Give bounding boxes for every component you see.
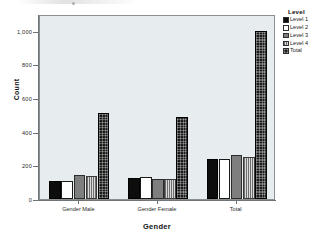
y-tick [33,166,38,167]
legend-swatch-icon [283,25,289,31]
bar [207,159,219,199]
x-tick [78,200,79,204]
bar [231,155,243,199]
legend-swatch-icon [283,41,289,47]
bar [86,176,98,199]
y-tick [33,133,38,134]
legend-title: Level [283,8,328,15]
bar [98,113,110,199]
bar [164,179,176,199]
y-tick-label: 1,000 [2,29,32,35]
plot-area [39,15,275,200]
bar-chart: 02004006008001,000 Count Gender MaleGend… [0,0,328,237]
x-tick [157,200,158,204]
y-tick-label: 200 [2,163,32,169]
x-axis-title: Gender [39,222,275,231]
legend-swatch-icon [283,17,289,23]
legend: Level Level 1Level 2Level 3Level 4Total [283,8,328,55]
bar [61,181,73,200]
legend-swatch-icon [283,33,289,39]
y-tick [33,65,38,66]
bar [176,117,188,199]
legend-swatch-icon [283,48,289,54]
bar [128,178,140,199]
x-tick [236,200,237,204]
legend-item: Level 4 [283,40,328,47]
x-tick-label: Total [230,206,242,212]
bar [74,175,86,199]
x-tick-label: Gender Male [62,206,94,212]
y-tick-label: 400 [2,130,32,136]
y-axis-line [38,15,39,201]
legend-item: Total [283,48,328,55]
legend-items: Level 1Level 2Level 3Level 4Total [283,17,328,55]
bar [219,159,231,199]
y-tick [33,32,38,33]
legend-item-label: Level 2 [290,25,308,31]
legend-item-label: Level 1 [290,17,308,23]
legend-item-label: Level 3 [290,33,308,39]
legend-item-label: Level 4 [290,41,308,47]
bar [255,31,267,199]
y-axis-title: Count [13,60,20,120]
legend-item: Level 1 [283,17,328,24]
bar [140,177,152,199]
bars-layer [40,16,274,199]
bar [152,179,164,199]
y-tick [33,99,38,100]
bar [49,181,61,200]
scan-artifact-speck [72,2,75,5]
scan-artifact-smudge [18,0,138,4]
x-tick-label: Gender Female [138,206,177,212]
bar [243,157,255,199]
legend-item: Level 3 [283,32,328,39]
legend-item: Level 2 [283,24,328,31]
legend-item-label: Total [290,48,302,54]
y-tick [33,200,38,201]
y-tick-label: 0 [2,197,32,203]
